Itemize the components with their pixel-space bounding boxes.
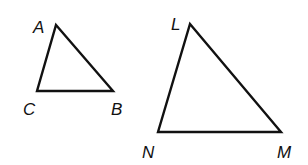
triangle-lmn: [158, 24, 281, 132]
similar-triangles-diagram: A B C L M N: [0, 0, 308, 165]
vertex-label-a: A: [32, 18, 44, 37]
triangle-abc: [37, 25, 113, 91]
vertex-label-l: L: [171, 15, 180, 34]
vertex-label-m: M: [277, 143, 292, 162]
vertex-label-b: B: [111, 100, 122, 119]
vertex-label-n: N: [142, 143, 155, 162]
vertex-label-c: C: [23, 100, 36, 119]
